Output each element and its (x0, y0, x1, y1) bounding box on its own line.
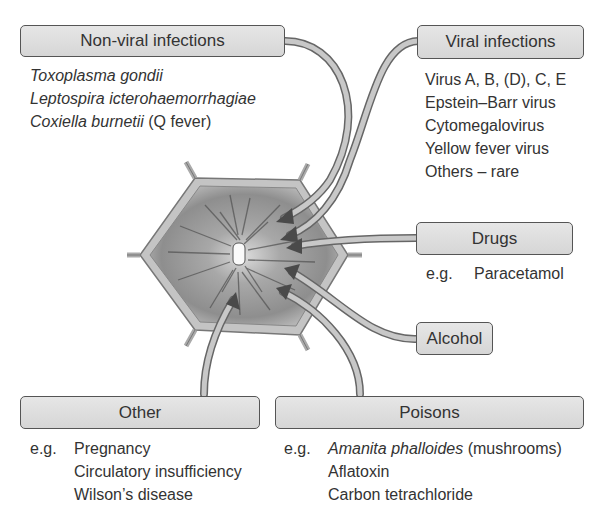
other-title: Other (119, 403, 162, 423)
list-item: e.g.Pregnancy (30, 437, 242, 460)
list-item: Wilson’s disease (30, 483, 242, 506)
list-item: Virus A, B, (D), C, E (425, 68, 566, 91)
poisons-box: Poisons (275, 396, 584, 429)
drugs-list: e.g.Paracetamol (426, 262, 564, 285)
list-item-note: (Q fever) (144, 113, 212, 130)
list-item: Coxiella burnetii (Q fever) (30, 110, 256, 133)
other-box: Other (20, 396, 260, 429)
drugs-box: Drugs (416, 222, 573, 255)
list-item: Cytomegalovirus (425, 114, 566, 137)
poisons-list: e.g.Amanita phalloides (mushrooms) Aflat… (284, 437, 562, 506)
list-item-text: Pregnancy (74, 437, 151, 460)
non-viral-infections-box: Non-viral infections (20, 25, 285, 57)
list-item-italic: Coxiella burnetii (30, 113, 144, 130)
list-item: Others – rare (425, 160, 566, 183)
non-viral-infections-list: Toxoplasma gondii Leptospira icterohaemo… (30, 64, 256, 133)
list-item-note: (mushrooms) (463, 437, 562, 460)
eg-label: e.g. (30, 437, 74, 460)
other-list: e.g.Pregnancy Circulatory insufficiency … (30, 437, 242, 506)
viral-infections-title: Viral infections (445, 32, 555, 52)
list-item: Carbon tetrachloride (284, 483, 562, 506)
alcohol-box: Alcohol (416, 322, 493, 355)
list-item: Leptospira icterohaemorrhagiae (30, 87, 256, 110)
alcohol-title: Alcohol (427, 329, 483, 349)
list-item-italic: Amanita phalloides (328, 437, 463, 460)
list-item: e.g.Amanita phalloides (mushrooms) (284, 437, 562, 460)
list-item: Yellow fever virus (425, 137, 566, 160)
list-item: Toxoplasma gondii (30, 64, 256, 87)
non-viral-infections-title: Non-viral infections (80, 31, 225, 51)
list-item-text: Paracetamol (474, 262, 564, 285)
list-item: e.g.Paracetamol (426, 262, 564, 285)
eg-label: e.g. (284, 437, 328, 460)
list-item: Circulatory insufficiency (30, 460, 242, 483)
diagram-canvas: Non-viral infections Toxoplasma gondii L… (0, 0, 604, 522)
eg-label: e.g. (426, 262, 474, 285)
drugs-title: Drugs (472, 229, 517, 249)
list-item: Epstein–Barr virus (425, 91, 566, 114)
viral-infections-list: Virus A, B, (D), C, E Epstein–Barr virus… (425, 68, 566, 183)
list-item: Aflatoxin (284, 460, 562, 483)
viral-infections-box: Viral infections (417, 25, 584, 59)
poisons-title: Poisons (399, 403, 459, 423)
